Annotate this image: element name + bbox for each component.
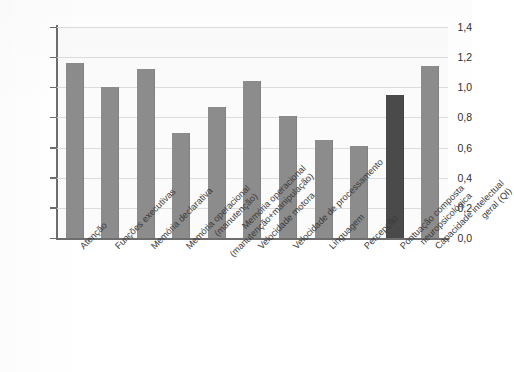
bar xyxy=(101,87,119,238)
bar xyxy=(243,81,261,238)
bar-slot xyxy=(412,27,448,238)
bar-slot xyxy=(235,27,271,238)
bar xyxy=(137,69,155,238)
y-tick-mark xyxy=(50,57,57,59)
x-axis-line xyxy=(56,238,449,240)
bar xyxy=(172,133,190,239)
bar xyxy=(66,63,84,238)
y-tick-mark xyxy=(50,27,57,29)
bar-slot xyxy=(128,27,164,238)
y-tick-mark xyxy=(50,147,57,149)
y-tick-mark xyxy=(50,87,57,89)
y-tick-mark xyxy=(50,117,57,119)
y-tick-mark xyxy=(50,238,57,240)
bar-slot xyxy=(270,27,306,238)
bar-slot xyxy=(306,27,342,238)
y-tick-mark xyxy=(50,207,57,209)
bar-slot xyxy=(57,27,93,238)
bar-series xyxy=(57,27,448,238)
x-tick-label-line: geral (QI) xyxy=(441,186,514,259)
bar-slot xyxy=(341,27,377,238)
bar-slot xyxy=(93,27,129,238)
bar xyxy=(315,140,333,238)
bar xyxy=(386,95,404,238)
y-tick-mark xyxy=(50,177,57,179)
bar xyxy=(279,116,297,238)
bar-slot xyxy=(199,27,235,238)
bar-slot xyxy=(377,27,413,238)
bar-slot xyxy=(164,27,200,238)
bar xyxy=(350,146,368,238)
bar xyxy=(208,107,226,238)
bar xyxy=(421,66,439,238)
